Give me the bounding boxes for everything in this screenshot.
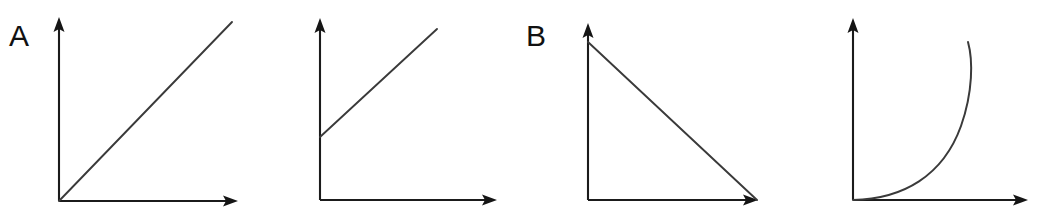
panel-d: D	[785, 0, 1038, 211]
panel-a: A	[0, 0, 260, 211]
figure-root: A B C	[0, 0, 1038, 211]
panel-a-graph	[0, 0, 260, 211]
panel-label-a: A	[9, 21, 29, 51]
panel-c-graph	[520, 0, 785, 211]
panel-d-graph	[785, 0, 1038, 211]
panel-b-graph	[260, 0, 520, 211]
data-line-a	[59, 22, 232, 201]
data-line-c	[588, 42, 757, 200]
data-curve-d	[853, 42, 971, 200]
panel-c: C	[520, 0, 785, 211]
data-line-b	[320, 29, 437, 137]
panel-b: B	[260, 0, 520, 211]
